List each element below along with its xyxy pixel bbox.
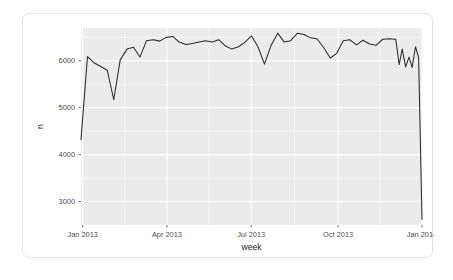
plot-area: 3000400050006000 Jan 2013Apr 2013Jul 201… — [23, 14, 434, 259]
x-axis-title: week — [240, 242, 262, 252]
y-axis: 3000400050006000 — [59, 56, 81, 206]
chart-card: 3000400050006000 Jan 2013Apr 2013Jul 201… — [22, 13, 433, 258]
y-tick-label: 5000 — [59, 103, 75, 112]
x-tick-label: Oct 2013 — [323, 230, 353, 239]
y-tick-label: 3000 — [59, 197, 75, 206]
x-axis: Jan 2013Apr 2013Jul 2013Oct 2013Jan 2014 — [67, 225, 434, 239]
x-tick-label: Jan 2014 — [407, 230, 434, 239]
x-tick-label: Jul 2013 — [237, 230, 265, 239]
y-tick-label: 6000 — [59, 56, 75, 65]
x-tick-label: Jan 2013 — [67, 230, 97, 239]
x-tick-label: Apr 2013 — [152, 230, 182, 239]
y-tick-label: 4000 — [59, 150, 75, 159]
y-axis-title: n — [35, 124, 45, 129]
chart-screenshot: 3000400050006000 Jan 2013Apr 2013Jul 201… — [0, 0, 453, 280]
line-chart-svg: 3000400050006000 Jan 2013Apr 2013Jul 201… — [23, 14, 434, 259]
